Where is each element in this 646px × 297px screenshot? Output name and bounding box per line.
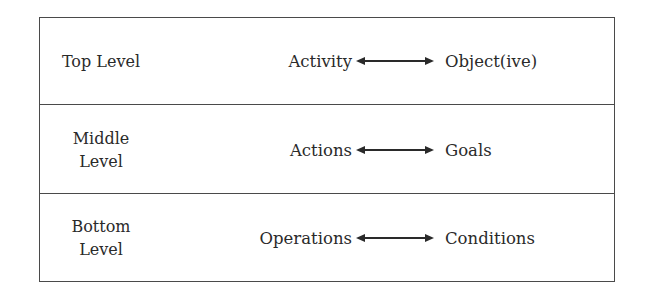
level-line: Bottom (40, 215, 162, 238)
level-line: Level (40, 150, 162, 173)
level-line: Top Level (62, 52, 140, 71)
right-term: Object(ive) (445, 52, 537, 71)
row-middle-level: Middle Level Actions Goals (40, 104, 614, 194)
left-term: Operations (259, 229, 352, 248)
right-term: Goals (445, 140, 492, 159)
left-term: Activity (288, 52, 352, 71)
double-arrow-icon (356, 56, 434, 66)
double-arrow-icon (356, 233, 434, 243)
row-top-level: Top Level Activity Object(ive) (40, 18, 614, 104)
level-line: Level (40, 238, 162, 261)
right-term: Conditions (445, 229, 535, 248)
level-label: Middle Level (40, 127, 162, 173)
double-arrow-icon (356, 145, 434, 155)
level-label: Top Level (31, 50, 171, 73)
row-bottom-level: Bottom Level Operations Conditions (40, 193, 614, 282)
left-term: Actions (290, 140, 352, 159)
level-label: Bottom Level (40, 215, 162, 261)
level-line: Middle (40, 127, 162, 150)
activity-hierarchy-table: Top Level Activity Object(ive) Middle Le… (39, 17, 615, 282)
